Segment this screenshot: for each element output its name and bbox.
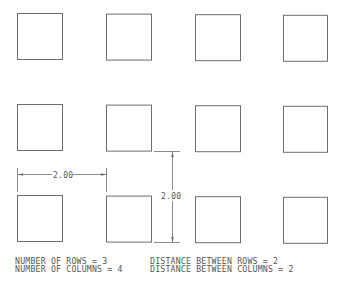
arrowhead-left — [18, 173, 24, 176]
array-square-r2-c1 — [18, 105, 63, 151]
array-square-r1-c1 — [18, 14, 63, 60]
note-columns: NUMBER OF COLUMNS = 4 — [15, 265, 123, 273]
array-square-r3-c2 — [107, 196, 152, 242]
array-square-r3-c1 — [18, 196, 63, 242]
note-column-distance: DISTANCE BETWEEN COLUMNS = 2 — [150, 265, 294, 273]
arrowhead-bottom — [171, 237, 174, 243]
arrowhead-right — [101, 173, 107, 176]
array-square-r1-c2 — [107, 14, 152, 60]
array-diagram: 2.00 2.00 — [0, 0, 343, 284]
array-square-r2-c2 — [107, 105, 152, 151]
array-square-r1-c4 — [284, 15, 328, 61]
array-square-r2-c4 — [284, 106, 328, 152]
array-square-r1-c3 — [196, 15, 241, 61]
array-square-r3-c3 — [196, 197, 241, 243]
arrowhead-top — [171, 152, 174, 158]
vertical-dimension-label: 2.00 — [161, 192, 181, 201]
horizontal-dimension-label: 2.00 — [53, 171, 73, 180]
array-square-r2-c3 — [196, 106, 241, 152]
array-square-r3-c4 — [284, 197, 328, 243]
